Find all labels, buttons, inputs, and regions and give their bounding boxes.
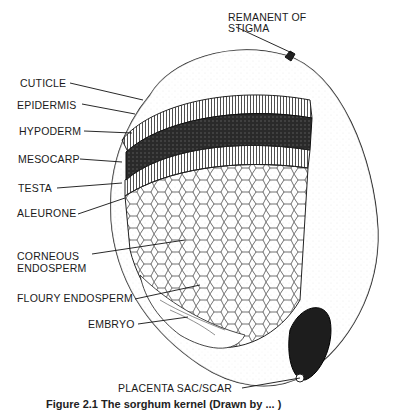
label-stigma-line2: STIGMA — [228, 23, 306, 34]
label-corneous-line2: ENDOSPERM — [17, 262, 86, 274]
label-stigma: REMANENT OF STIGMA — [228, 12, 306, 34]
label-hypoderm: HYPODERM — [19, 125, 81, 137]
label-aleurone: ALEURONE — [17, 207, 76, 219]
label-embryo: EMBRYO — [88, 318, 135, 330]
label-floury-endosperm: FLOURY ENDOSPERM — [17, 292, 133, 304]
label-epidermis: EPIDERMIS — [17, 99, 77, 111]
label-cuticle: CUTICLE — [20, 77, 66, 89]
label-corneous-line1: CORNEOUS — [17, 250, 86, 262]
label-corneous-endosperm: CORNEOUS ENDOSPERM — [17, 250, 86, 274]
label-mesocarp: MESOCARP — [18, 153, 80, 165]
label-testa: TESTA — [18, 182, 52, 194]
label-placenta: PLACENTA SAC/SCAR — [118, 382, 232, 394]
figure-caption: Figure 2.1 The sorghum kernel (Drawn by … — [46, 398, 281, 410]
